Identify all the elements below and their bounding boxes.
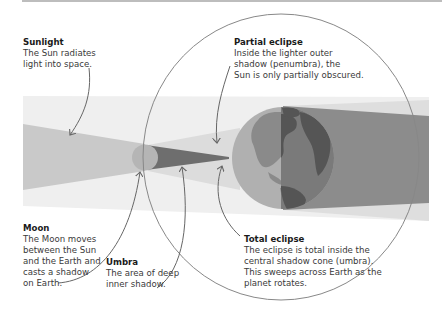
sunlight-title: Sunlight	[23, 37, 96, 48]
moon-label: Moon The Moon moves between the Sun and …	[23, 223, 101, 289]
total-eclipse-title: Total eclipse	[244, 234, 382, 245]
total-eclipse-body: The eclipse is total inside the central …	[244, 245, 382, 289]
sunlight-body: The Sun radiates light into space.	[23, 48, 96, 70]
partial-eclipse-title: Partial eclipse	[234, 37, 364, 48]
sunlight-label: Sunlight The Sun radiates light into spa…	[23, 37, 96, 70]
umbra-label: Umbra The area of deep inner shadow.	[106, 257, 179, 290]
moon	[132, 145, 158, 171]
umbra-body: The area of deep inner shadow.	[106, 268, 179, 290]
total-eclipse-label: Total eclipse The eclipse is total insid…	[244, 234, 382, 289]
umbra-title: Umbra	[106, 257, 179, 268]
partial-eclipse-body: Inside the lighter outer shadow (penumbr…	[234, 48, 364, 81]
partial-eclipse-label: Partial eclipse Inside the lighter outer…	[234, 37, 364, 81]
moon-body: The Moon moves between the Sun and the E…	[23, 234, 101, 289]
moon-title: Moon	[23, 223, 101, 234]
